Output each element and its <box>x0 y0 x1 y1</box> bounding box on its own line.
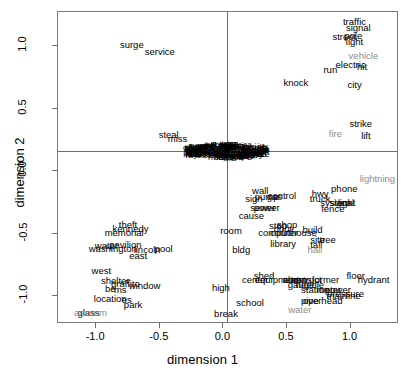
point-label: line <box>346 292 361 302</box>
cluster-glyph: n <box>211 141 215 149</box>
cluster-glyph: an <box>244 153 252 160</box>
scatter-plot: surgeservicestealmissknockruncitytraffic… <box>0 0 405 379</box>
point-label: surge <box>120 40 144 50</box>
plot-area: surgeservicestealmissknockruncitytraffic… <box>57 11 398 323</box>
point-label: hall <box>308 245 323 255</box>
point-label: cause <box>239 211 264 221</box>
point-label: city <box>347 80 361 90</box>
point-label: park <box>124 300 142 310</box>
point-label: bldg <box>232 245 250 255</box>
point-label: light <box>346 37 363 47</box>
y-tick <box>52 45 57 46</box>
point-label: fence <box>321 204 344 214</box>
y-tick-label: 1.0 <box>16 36 28 51</box>
point-label: room <box>220 227 242 237</box>
point-label: strike <box>349 119 372 129</box>
point-label: memorial <box>105 228 144 238</box>
point-label: hydrant <box>358 275 390 285</box>
x-tick-label: -0.5 <box>149 330 168 342</box>
y-axis-label: dimension 2 <box>12 98 27 248</box>
point-label: control <box>268 191 297 201</box>
point-label: library <box>270 239 296 249</box>
point-label: service <box>145 47 175 57</box>
point-label: high <box>212 283 230 293</box>
point-label: lift <box>361 131 371 141</box>
point-label: phone <box>331 184 357 194</box>
chart-title <box>0 0 405 2</box>
point-label: east <box>129 252 147 262</box>
x-tick-label: -1.0 <box>86 330 105 342</box>
point-label: lightning <box>360 174 395 184</box>
x-tick <box>350 323 351 328</box>
point-label: art <box>74 308 85 318</box>
x-tick <box>222 323 223 328</box>
x-tick-label: 0.5 <box>278 330 293 342</box>
point-label: fire <box>329 129 342 139</box>
cluster-glyph: ing <box>204 150 215 158</box>
y-tick <box>52 170 57 171</box>
cluster-glyph: pa <box>218 151 226 158</box>
point-label: knock <box>283 79 308 89</box>
x-tick <box>95 323 96 328</box>
vertical-reference-line <box>227 12 228 323</box>
x-tick-label: 1.0 <box>342 330 357 342</box>
x-tick <box>159 323 160 328</box>
cluster-glyph: er <box>257 143 265 152</box>
point-label: break <box>214 309 238 319</box>
y-tick-label: -1.0 <box>17 285 29 304</box>
cluster-glyph: ma <box>232 143 245 152</box>
point-label: window <box>129 282 161 292</box>
point-label: water <box>288 305 311 315</box>
y-tick <box>52 233 57 234</box>
x-tick-label: 0.0 <box>215 330 230 342</box>
x-axis-label: dimension 1 <box>0 352 405 367</box>
point-label: hit <box>357 62 367 72</box>
point-label: room <box>85 308 107 318</box>
y-tick <box>52 108 57 109</box>
cluster-glyph: ca <box>249 144 257 152</box>
origin-cluster: thseseasmaimgaderyandthinchsttjariliraft… <box>185 140 269 162</box>
point-label: school <box>236 298 263 308</box>
x-tick <box>286 323 287 328</box>
cluster-glyph: la <box>187 149 192 155</box>
point-label: water <box>95 242 118 252</box>
y-tick <box>52 295 57 296</box>
